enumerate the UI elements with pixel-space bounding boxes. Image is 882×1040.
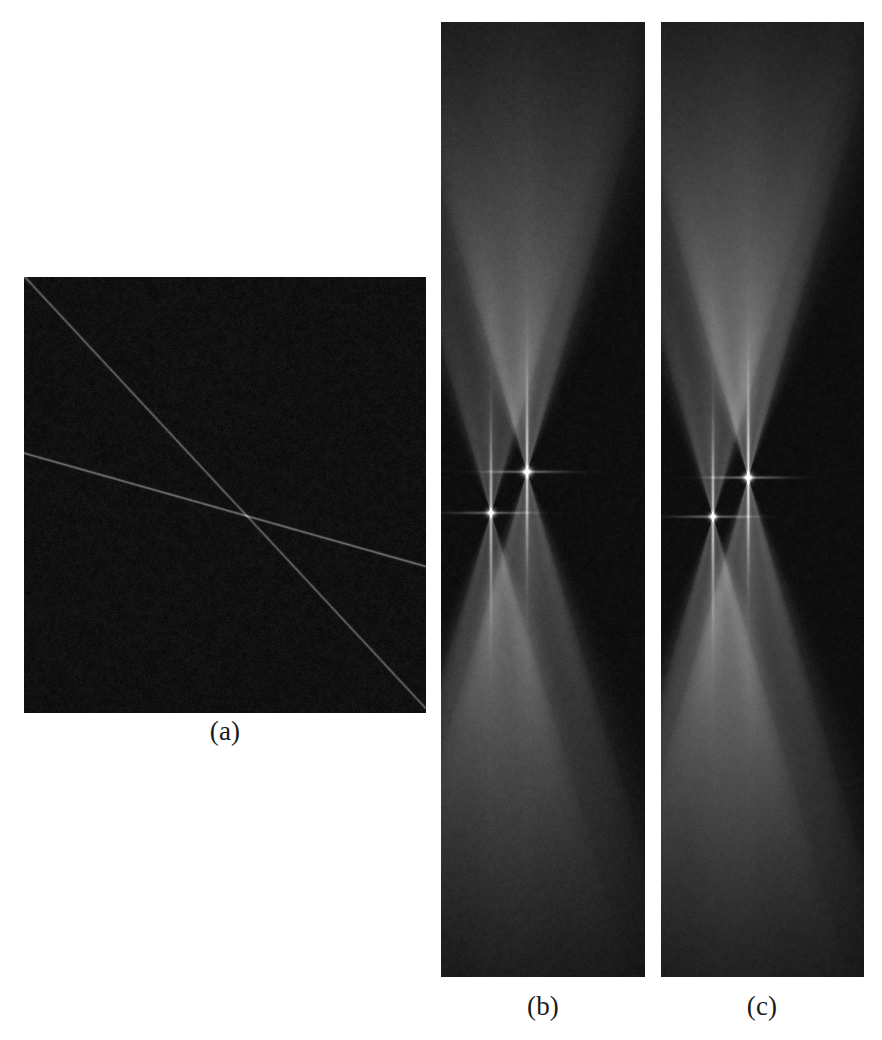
panel-label-b: (b) (467, 993, 619, 1020)
figure-panel-c (661, 22, 864, 977)
panel-a-image (24, 277, 426, 713)
panel-label-c: (c) (686, 993, 838, 1020)
panel-b-image (441, 22, 645, 977)
figure-panel-a (24, 277, 426, 713)
figure-panel-b (441, 22, 645, 977)
panel-c-image (661, 22, 864, 977)
panel-label-a: (a) (149, 718, 301, 745)
figure-root: (a) (b) (c) (0, 0, 882, 1040)
